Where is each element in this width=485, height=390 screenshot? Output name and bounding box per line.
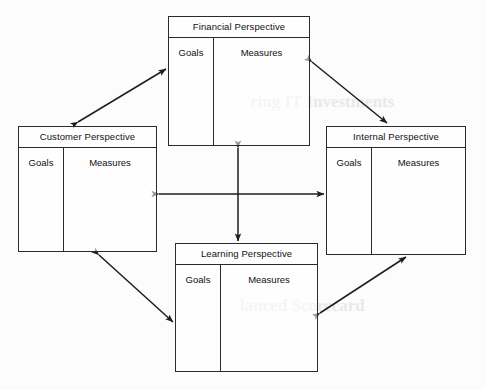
- column-header-goals: Goals: [29, 157, 54, 168]
- box-title-internal: Internal Perspective: [327, 127, 465, 148]
- column-goals-learning: Goals: [176, 265, 221, 372]
- connector-customer-learning: [99, 255, 173, 322]
- column-header-measures: Measures: [248, 274, 290, 285]
- box-title-customer: Customer Perspective: [19, 127, 156, 148]
- column-goals-internal: Goals: [327, 148, 372, 255]
- perspective-box-financial[interactable]: Financial Perspective Goals Measures: [168, 16, 310, 146]
- column-measures-learning: Measures: [221, 265, 317, 372]
- connector-learning-internal: [320, 257, 406, 313]
- perspective-box-internal[interactable]: Internal Perspective Goals Measures: [326, 126, 466, 255]
- column-header-goals: Goals: [179, 47, 204, 58]
- column-header-goals: Goals: [337, 157, 362, 168]
- column-goals-customer: Goals: [19, 148, 64, 252]
- column-goals-financial: Goals: [169, 38, 214, 146]
- column-measures-internal: Measures: [372, 148, 465, 255]
- column-header-measures: Measures: [241, 47, 283, 58]
- perspective-box-customer[interactable]: Customer Perspective Goals Measures: [18, 126, 157, 252]
- box-columns-financial: Goals Measures: [169, 38, 309, 146]
- connector-financial-internal: [312, 62, 387, 123]
- box-columns-internal: Goals Measures: [327, 148, 465, 255]
- perspective-box-learning[interactable]: Learning Perspective Goals Measures: [175, 243, 318, 372]
- column-header-measures: Measures: [89, 157, 131, 168]
- column-header-goals: Goals: [186, 274, 211, 285]
- connector-customer-financial: [78, 69, 166, 122]
- box-title-financial: Financial Perspective: [169, 17, 309, 38]
- column-measures-customer: Measures: [64, 148, 156, 252]
- column-header-measures: Measures: [398, 157, 440, 168]
- box-title-learning: Learning Perspective: [176, 244, 317, 265]
- column-measures-financial: Measures: [214, 38, 309, 146]
- diagram-canvas: ring IT Investments lanced Scorecard Fin…: [0, 0, 485, 390]
- box-columns-customer: Goals Measures: [19, 148, 156, 252]
- box-columns-learning: Goals Measures: [176, 265, 317, 372]
